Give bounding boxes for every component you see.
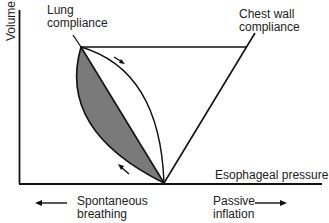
- lung-compliance-label-line1: Lung: [47, 4, 74, 16]
- arrow-left-icon: [35, 200, 67, 206]
- spontaneous-breathing-label-line2: breathing: [77, 208, 127, 220]
- chest-wall-compliance-line: [164, 33, 255, 183]
- lung-compliance-extension: [73, 35, 81, 47]
- arrow-down-right-icon: [114, 57, 125, 64]
- chest-wall-compliance-label-line2: compliance: [239, 21, 300, 33]
- y-axis-label: Volume: [4, 1, 18, 41]
- x-axis-label: Esophageal pressure: [215, 169, 328, 181]
- spontaneous-breathing-label-line1: Spontaneous: [77, 195, 148, 207]
- arrow-right-icon: [255, 200, 287, 206]
- pressure-volume-diagram: Volume Lung compliance Chest wall compli…: [0, 0, 329, 223]
- passive-inflation-label-line2: inflation: [213, 208, 254, 220]
- arrow-up-left-icon: [118, 164, 129, 174]
- passive-inflation-label-line1: Passive: [213, 195, 255, 207]
- chest-wall-compliance-label-line1: Chest wall: [239, 8, 294, 20]
- lung-compliance-label-line2: compliance: [47, 17, 108, 29]
